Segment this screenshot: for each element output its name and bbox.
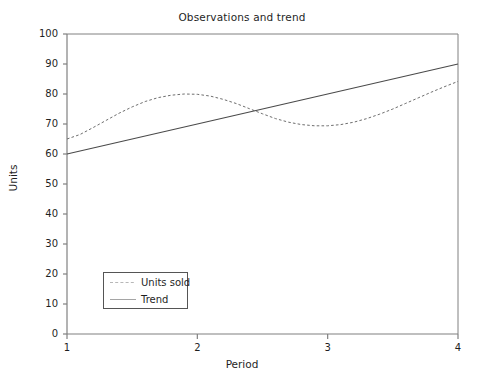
legend-item-units-sold: Units sold bbox=[104, 274, 189, 291]
legend-swatch-dashed-icon bbox=[110, 282, 136, 283]
y-tick-label: 30 bbox=[24, 239, 58, 249]
data-series bbox=[67, 64, 458, 154]
y-tick-label: 90 bbox=[24, 59, 58, 69]
legend-item-trend: Trend bbox=[104, 291, 189, 308]
legend-swatch-solid-icon bbox=[110, 299, 136, 300]
x-tick-label: 2 bbox=[182, 343, 212, 353]
y-tick-label: 40 bbox=[24, 209, 58, 219]
y-tick-label: 10 bbox=[24, 299, 58, 309]
x-tick-label: 3 bbox=[313, 343, 343, 353]
legend-label-units-sold: Units sold bbox=[141, 277, 190, 288]
plot-area bbox=[0, 0, 484, 389]
series-line bbox=[67, 81, 458, 139]
legend-label-trend: Trend bbox=[141, 294, 168, 305]
y-tick-label: 0 bbox=[24, 329, 58, 339]
y-tick-label: 50 bbox=[24, 179, 58, 189]
chart-figure: Observations and trend Units Period 0102… bbox=[0, 0, 484, 389]
y-tick-label: 60 bbox=[24, 149, 58, 159]
y-tick-label: 100 bbox=[24, 29, 58, 39]
y-tick-label: 80 bbox=[24, 89, 58, 99]
chart-legend: Units sold Trend bbox=[103, 272, 188, 309]
series-line bbox=[67, 64, 458, 154]
y-tick-label: 70 bbox=[24, 119, 58, 129]
y-tick-label: 20 bbox=[24, 269, 58, 279]
x-tick-label: 4 bbox=[443, 343, 473, 353]
x-tick-label: 1 bbox=[52, 343, 82, 353]
